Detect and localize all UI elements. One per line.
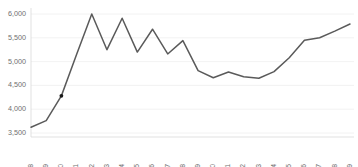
x-axis-tick-label: 2011: [224, 164, 231, 167]
x-axis-tick-label: 2014: [270, 164, 277, 167]
x-axis-tick-label: 2019: [346, 164, 353, 167]
x-axis-tick-label: 2008: [179, 164, 186, 167]
x-axis-tick-label: 2015: [285, 164, 292, 167]
x-axis-tick-label: 2010: [209, 164, 216, 167]
x-axis-tick-label: 2017: [315, 164, 322, 167]
data-point-marker: [59, 94, 63, 98]
data-line-series-1: [31, 14, 350, 127]
y-axis-tick-label: 5,000: [8, 57, 26, 66]
x-axis-tick-label: 2004: [118, 164, 125, 167]
y-axis-tick-label: 5,500: [8, 33, 26, 42]
x-axis-tick-label: 2009: [194, 164, 201, 167]
y-axis-tick-label: 4,000: [8, 104, 26, 113]
x-axis-tick-label: 2018: [331, 164, 338, 167]
x-axis-tick-label: 2003: [103, 164, 110, 167]
x-axis-tick-label: 2002: [88, 164, 95, 167]
x-axis-tick-label: 2007: [164, 164, 171, 167]
x-axis-tick-label: 1998: [27, 164, 34, 167]
y-axis-tick-label: 3,500: [8, 128, 26, 137]
x-axis-tick-label: 2006: [148, 164, 155, 167]
axis-lines: [31, 8, 354, 137]
gridlines: [31, 14, 354, 133]
chart-canvas: 3,5004,0004,5005,0005,5006,000 199819992…: [0, 0, 358, 167]
y-axis-tick-label: 6,000: [8, 9, 26, 18]
y-axis-tick-labels: 3,5004,0004,5005,0005,5006,000: [8, 9, 26, 137]
x-axis-tick-label: 2000: [57, 164, 64, 167]
x-axis-tick-label: 1999: [42, 164, 49, 167]
x-axis-tick-label: 2016: [300, 164, 307, 167]
x-axis-tick-label: 2013: [255, 164, 262, 167]
data-point-markers: [59, 94, 63, 98]
x-axis-tick-label: 2005: [133, 164, 140, 167]
y-axis-tick-label: 4,500: [8, 80, 26, 89]
line-chart: 3,5004,0004,5005,0005,5006,000 199819992…: [0, 0, 358, 167]
x-axis-tick-label: 2012: [239, 164, 246, 167]
x-axis-tick-labels: 1998199920002001200220032004200520062007…: [27, 164, 353, 167]
x-axis-tick-label: 2001: [72, 164, 79, 167]
